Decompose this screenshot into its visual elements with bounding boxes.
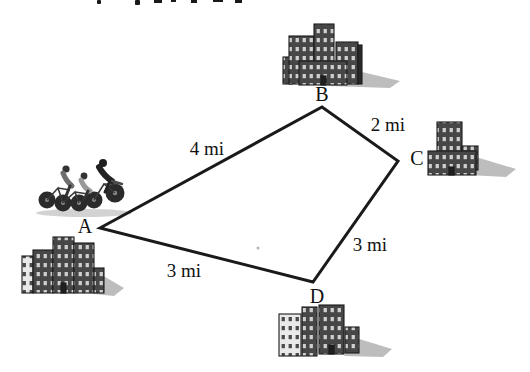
- building: [33, 250, 53, 293]
- building-side: [358, 45, 362, 84]
- vertex-label-D: D: [310, 285, 324, 307]
- building: [302, 307, 317, 356]
- print-speck: [257, 247, 260, 250]
- bicycle-wheels: [39, 184, 125, 212]
- building: [74, 243, 94, 293]
- building: [94, 268, 104, 293]
- cropped-text-fragments-icon: [97, 0, 242, 5]
- door: [449, 167, 454, 175]
- vertex-label-B: B: [315, 83, 328, 105]
- city-b-illustration: [283, 24, 400, 88]
- vertex-label-C: C: [410, 147, 423, 169]
- building: [22, 256, 33, 293]
- route-diagram: A B C D 4 mi 2 mi 3 mi 3 mi: [0, 0, 530, 372]
- door: [329, 345, 334, 354]
- city-d-illustration: [279, 305, 392, 357]
- vertex-label-A: A: [78, 215, 93, 237]
- door: [61, 283, 66, 293]
- city-a-illustration: [22, 237, 124, 296]
- city-c-illustration: [428, 122, 516, 177]
- edge-label-AB: 4 mi: [190, 138, 224, 159]
- route-quadrilateral: [100, 107, 398, 282]
- edge-label-DA: 3 mi: [167, 260, 201, 281]
- edge-label-BC: 2 mi: [371, 114, 405, 135]
- building: [279, 314, 301, 356]
- edge-label-CD: 3 mi: [353, 234, 387, 255]
- building: [345, 327, 359, 353]
- cyclists-illustration: [36, 159, 132, 217]
- figure-canvas: A B C D 4 mi 2 mi 3 mi 3 mi: [0, 0, 530, 372]
